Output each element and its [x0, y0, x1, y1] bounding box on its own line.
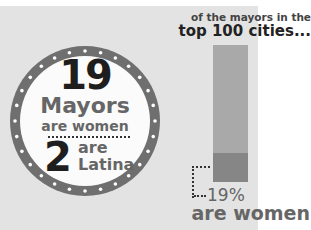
bar-header-line2: top 100 cities...: [178, 23, 258, 40]
are-label: are: [78, 139, 108, 156]
latina-count: 2: [44, 137, 72, 177]
latina-label: Latina: [78, 156, 134, 173]
mayors-label: Mayors: [10, 94, 160, 118]
are-women-label: are women: [10, 118, 160, 134]
dotted-bracket-bottom: [194, 195, 206, 197]
bar-women-segment: [213, 153, 248, 182]
women-mayors-count: 19: [10, 55, 160, 95]
percent-caption: are women: [191, 203, 258, 223]
